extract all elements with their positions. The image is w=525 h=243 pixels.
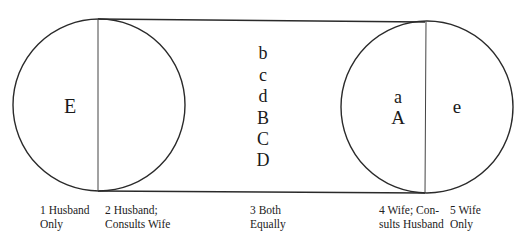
center-label-3: d [259,86,268,106]
band-bottom-edge [98,191,425,193]
caption-3-line1: 3 Both [250,203,286,217]
band-top-edge [98,19,425,22]
caption-4-line2: sults Husband [379,217,444,231]
caption-4: 4 Wife; Con- sults Husband [379,203,444,231]
caption-3: 3 Both Equally [250,203,286,231]
right-outer-label: e [453,96,461,117]
caption-5-line1: 5 Wife [450,203,481,217]
caption-5: 5 Wife Only [450,203,481,231]
caption-2-line1: 2 Husband; [105,203,170,217]
right-inner-label-2: A [391,107,405,128]
caption-1-line1: 1 Husband [40,203,90,217]
caption-5-line2: Only [450,217,481,231]
right-circle [341,21,513,193]
center-label-5: C [257,129,269,149]
caption-1-line2: Only [40,217,90,231]
caption-3-line2: Equally [250,217,286,231]
left-outer-label: E [64,95,76,117]
caption-2: 2 Husband; Consults Wife [105,203,170,231]
left-circle [13,19,185,191]
caption-1: 1 Husband Only [40,203,90,231]
right-inner-label-1: a [394,87,402,107]
center-label-2: c [259,65,267,85]
caption-4-line1: 4 Wife; Con- [379,203,444,217]
center-label-6: D [257,150,270,170]
right-circle-divider [425,22,426,193]
center-label-1: b [259,43,268,63]
caption-2-line2: Consults Wife [105,217,170,231]
center-label-4: B [257,108,269,128]
